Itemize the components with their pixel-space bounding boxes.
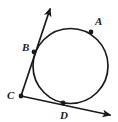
point-dot-b [32,50,37,55]
point-dot-c [19,94,24,99]
figure-canvas: ABCD [0,0,118,122]
point-dot-d [61,101,66,106]
point-dot-a [89,30,94,35]
point-label-b: B [21,41,29,53]
circle-group [33,29,108,104]
point-labels-group: ABCD [7,15,102,121]
point-label-a: A [94,15,102,27]
point-label-d: D [59,109,68,121]
circle [33,29,108,104]
point-label-c: C [7,89,15,101]
geometry-figure: ABCD [0,0,118,122]
